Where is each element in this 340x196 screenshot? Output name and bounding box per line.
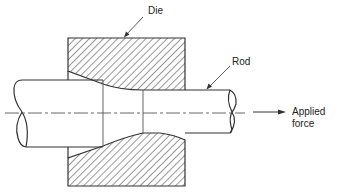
applied-force-label-line2: force <box>292 118 315 129</box>
applied-force-label-line1: Applied <box>292 106 325 117</box>
rod-label: Rod <box>232 56 250 67</box>
rod-entry-section <box>14 80 103 147</box>
rod-leader-line <box>208 66 230 88</box>
die-label: Die <box>148 5 163 16</box>
rod-drawing-diagram: Die Rod Applied force <box>0 0 340 196</box>
applied-force-arrow <box>253 110 286 115</box>
die-upper-half <box>68 38 185 90</box>
die-lower-half <box>68 133 185 186</box>
rod-exit-section <box>185 90 236 133</box>
